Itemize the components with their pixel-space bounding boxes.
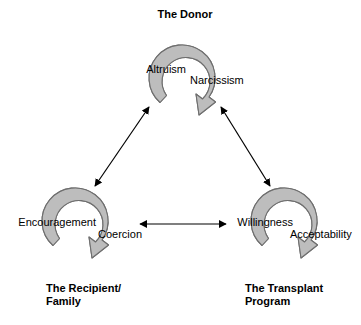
recipient-title: The Recipient/ Family xyxy=(46,282,121,308)
transplant-title: The Transplant Program xyxy=(245,282,323,308)
donor-left-label: Altruism xyxy=(146,63,186,76)
recipient-left-label: Encouragement xyxy=(18,216,96,229)
transplant-left-label: Willingness xyxy=(237,216,293,229)
donor-title: The Donor xyxy=(158,8,213,21)
connectors-layer xyxy=(95,107,270,224)
connector-donor-recipient xyxy=(95,107,149,186)
recipient-right-label: Coercion xyxy=(98,228,142,241)
transplant-ethics-cycle-diagram: The Donor Altruism Narcissism Encouragem… xyxy=(0,0,361,325)
cycle-rings-layer xyxy=(0,0,361,325)
donor-right-label: Narcissism xyxy=(190,74,244,87)
connector-donor-transplant xyxy=(221,107,270,186)
transplant-right-label: Acceptability xyxy=(290,228,352,241)
